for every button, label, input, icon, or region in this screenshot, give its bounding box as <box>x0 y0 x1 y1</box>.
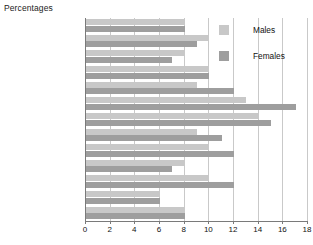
x-tick <box>134 221 135 224</box>
bar-males <box>86 160 185 166</box>
bar-females <box>86 182 234 188</box>
x-tick-label: 16 <box>278 225 287 234</box>
x-tick <box>208 221 209 224</box>
chart-title: Percentages <box>4 3 53 13</box>
x-tick <box>184 221 185 224</box>
bar-males <box>86 129 197 135</box>
x-tick <box>159 221 160 224</box>
bar-males <box>86 19 185 25</box>
bar-males <box>86 207 185 213</box>
bar-males <box>86 97 246 103</box>
x-axis-line <box>85 221 307 222</box>
x-tick-label: 10 <box>204 225 213 234</box>
bar-males <box>86 191 160 197</box>
bar-females <box>86 120 271 126</box>
bar-males <box>86 50 185 56</box>
x-tick <box>110 221 111 224</box>
x-tick-label: 18 <box>303 225 312 234</box>
bar-females <box>86 166 172 172</box>
x-tick <box>85 221 86 224</box>
x-tick-label: 12 <box>229 225 238 234</box>
males-swatch-icon <box>219 25 229 35</box>
bar-females <box>86 151 234 157</box>
bar-females <box>86 213 185 219</box>
x-tick <box>258 221 259 224</box>
x-tick-label: 4 <box>132 225 136 234</box>
legend: Males Females <box>219 25 307 69</box>
legend-label-males: Males <box>253 25 275 35</box>
legend-entry-females: Females <box>219 51 285 61</box>
bar-females <box>86 73 209 79</box>
x-tick-label: 14 <box>253 225 262 234</box>
gridline <box>307 18 308 221</box>
bar-males <box>86 66 209 72</box>
bar-females <box>86 41 197 47</box>
bar-females <box>86 198 160 204</box>
legend-entry-males: Males <box>219 25 275 35</box>
x-tick-label: 0 <box>83 225 87 234</box>
x-tick-label: 6 <box>157 225 161 234</box>
bar-females <box>86 88 234 94</box>
x-tick <box>307 221 308 224</box>
bar-females <box>86 135 222 141</box>
x-tick-label: 8 <box>181 225 185 234</box>
x-tick <box>282 221 283 224</box>
legend-label-females: Females <box>253 51 285 61</box>
bar-females <box>86 104 296 110</box>
females-swatch-icon <box>219 51 229 61</box>
bar-males <box>86 144 209 150</box>
bar-males <box>86 175 209 181</box>
x-tick-label: 2 <box>107 225 111 234</box>
bar-males <box>86 82 197 88</box>
bar-males <box>86 35 209 41</box>
bar-females <box>86 57 172 63</box>
bar-males <box>86 113 259 119</box>
bar-chart: Percentages 024681012141618 White Britis… <box>0 0 313 245</box>
bar-females <box>86 26 185 32</box>
x-tick <box>233 221 234 224</box>
